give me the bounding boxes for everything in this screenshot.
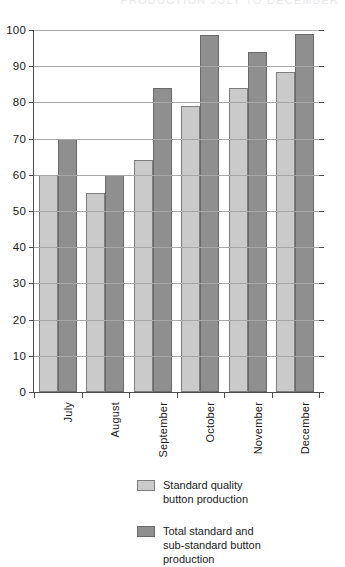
x-axis-category-labels: JulyAugustSeptemberOctoberNovemberDecemb… <box>33 398 318 468</box>
x-axis-category-september: September <box>157 402 169 458</box>
bar-december-total <box>295 34 314 392</box>
bar-october-standard <box>181 106 200 392</box>
x-axis-category-october: October <box>204 402 216 443</box>
y-axis-tick <box>29 283 34 284</box>
y-axis-label: 50 <box>13 205 26 217</box>
legend-item-standard-quality: Standard quality button production <box>137 478 337 506</box>
gridline <box>34 139 319 140</box>
legend-label-standard-quality: Standard quality button production <box>163 478 248 506</box>
y-axis-tick-right <box>319 320 324 321</box>
y-axis-tick <box>29 139 34 140</box>
bar-october-total <box>200 35 219 392</box>
y-axis-tick <box>29 102 34 103</box>
bar-november-standard <box>229 88 248 392</box>
y-axis-tick <box>29 175 34 176</box>
y-axis-tick-right <box>319 392 324 393</box>
legend-label-line3: production <box>163 553 214 565</box>
y-axis-tick-right <box>319 175 324 176</box>
legend-label-line2: sub-standard button <box>163 539 261 551</box>
y-axis-label: 0 <box>19 386 26 398</box>
y-axis-tick-right <box>319 247 324 248</box>
y-axis-tick <box>29 247 34 248</box>
plot-area-wrapper: 0102030405060708090100 <box>0 0 345 400</box>
gridline <box>34 175 319 176</box>
y-axis-tick-right <box>319 211 324 212</box>
y-axis-tick <box>29 392 34 393</box>
gridline <box>34 30 319 31</box>
y-axis-tick <box>29 66 34 67</box>
legend-label-total-standard: Total standard and sub-standard button p… <box>163 524 261 566</box>
chart-legend: Standard quality button production Total… <box>137 478 337 567</box>
y-axis-tick <box>29 320 34 321</box>
bar-september-total <box>153 88 172 392</box>
x-axis-category-july: July <box>62 402 74 422</box>
y-axis-label: 60 <box>13 169 26 181</box>
y-axis-tick <box>29 30 34 31</box>
x-axis-category-december: December <box>299 402 311 454</box>
y-axis-label: 100 <box>6 24 26 36</box>
legend-item-total-standard-and-sub-standard: Total standard and sub-standard button p… <box>137 524 337 566</box>
bar-chart-figure: PRODUCTION JULY TO DECEMBER 010203040506… <box>0 0 345 567</box>
legend-swatch-dark-icon <box>137 526 155 537</box>
gridline <box>34 247 319 248</box>
gridline <box>34 211 319 212</box>
y-axis-tick-right <box>319 356 324 357</box>
y-axis-label: 40 <box>13 241 26 253</box>
bar-august-standard <box>86 193 105 392</box>
gridline <box>34 66 319 67</box>
x-axis-category-november: November <box>252 402 264 454</box>
y-axis-tick <box>29 211 34 212</box>
legend-swatch-light-icon <box>137 480 155 491</box>
y-axis-tick-right <box>319 66 324 67</box>
legend-label-line1: Standard quality <box>163 479 243 491</box>
y-axis-tick-right <box>319 30 324 31</box>
y-axis-tick-right <box>319 102 324 103</box>
y-axis-label: 80 <box>13 96 26 108</box>
plot-area: 0102030405060708090100 <box>33 30 319 393</box>
bar-september-standard <box>134 160 153 392</box>
y-axis-tick-right <box>319 283 324 284</box>
gridline <box>34 283 319 284</box>
gridline <box>34 102 319 103</box>
y-axis-label: 20 <box>13 314 26 326</box>
legend-label-line1: Total standard and <box>163 525 254 537</box>
y-axis-tick <box>29 356 34 357</box>
y-axis-label: 10 <box>13 350 26 362</box>
y-axis-label: 90 <box>13 60 26 72</box>
x-axis-category-august: August <box>109 402 121 437</box>
y-axis-label: 30 <box>13 277 26 289</box>
y-axis-label: 70 <box>13 133 26 145</box>
bar-december-standard <box>276 72 295 392</box>
gridline <box>34 320 319 321</box>
legend-label-line2: button production <box>163 493 248 505</box>
y-axis-tick-right <box>319 139 324 140</box>
bar-july-total <box>58 139 77 392</box>
gridline <box>34 356 319 357</box>
